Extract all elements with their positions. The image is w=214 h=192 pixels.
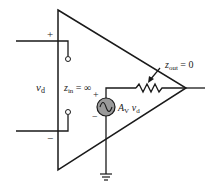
zout-label: zout = 0	[164, 59, 194, 72]
noninverting-input-lead	[16, 41, 68, 56]
input-minus-sign: −	[47, 132, 53, 144]
noninverting-terminal	[66, 57, 71, 62]
vd-label: vd	[36, 81, 45, 95]
source-top-wire	[106, 88, 136, 98]
inverting-terminal	[66, 110, 71, 115]
output-resistor	[136, 84, 186, 92]
source-plus-sign: +	[93, 89, 99, 100]
inverting-input-lead	[16, 115, 68, 131]
gain-label: AV vd	[117, 102, 140, 115]
source-minus-sign: −	[92, 111, 98, 122]
zin-label: zin = ∞	[63, 82, 91, 95]
op-amp-diagram: + − vd zin = ∞ + − AV vd zout = 0	[0, 0, 214, 192]
input-plus-sign: +	[47, 28, 53, 40]
